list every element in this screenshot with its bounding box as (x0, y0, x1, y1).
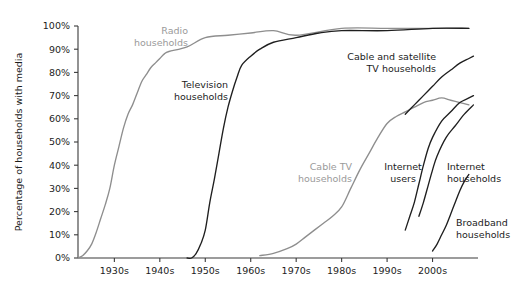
y-tick-label: 0% (55, 252, 70, 263)
series-label-line1: Cable and satellite (347, 51, 436, 62)
y-axis-ticks: 0%10%20%30%40%50%60%70%80%90%100% (43, 20, 78, 263)
series-label-line2: households (174, 91, 228, 102)
series-label-line2: TV households (366, 63, 436, 74)
series-label-6: Broadbandhouseholds (456, 217, 510, 240)
y-axis-group: 0%10%20%30%40%50%60%70%80%90%100% Percen… (13, 20, 78, 263)
series-label-line2: users (390, 173, 416, 184)
series-label-line1: Television (181, 79, 228, 90)
x-tick-label: 1950s (191, 265, 220, 276)
series-label-line2: households (298, 173, 352, 184)
x-axis-group: 1930s1940s1950s1960s1970s1980s1990s2000s (78, 258, 478, 276)
series-label-0: Radiohouseholds (134, 25, 188, 48)
y-axis-title: Percentage of households with media (13, 53, 24, 232)
y-tick-label: 60% (49, 113, 70, 124)
series-label-line1: Cable TV (310, 161, 353, 172)
x-tick-label: 2000s (418, 265, 447, 276)
series-label-line2: households (134, 37, 188, 48)
x-tick-label: 1930s (100, 265, 129, 276)
y-tick-label: 10% (49, 229, 70, 240)
y-tick-label: 40% (49, 160, 70, 171)
series-label-line2: households (456, 229, 510, 240)
series-label-line1: Radio (161, 25, 188, 36)
series-label-3: Cable and satelliteTV households (347, 51, 436, 74)
series-label-line1: Broadband (456, 217, 508, 228)
media-adoption-chart: 0%10%20%30%40%50%60%70%80%90%100% Percen… (0, 0, 520, 291)
x-tick-label: 1970s (282, 265, 311, 276)
x-tick-label: 1990s (373, 265, 402, 276)
series-label-line1: Internet (384, 161, 422, 172)
x-tick-label: 1940s (145, 265, 174, 276)
series-label-line2: households (447, 173, 501, 184)
y-tick-label: 80% (49, 67, 70, 78)
x-axis-ticks: 1930s1940s1950s1960s1970s1980s1990s2000s (100, 258, 447, 276)
series-label-1: Televisionhouseholds (174, 79, 228, 102)
y-tick-label: 70% (49, 90, 70, 101)
y-tick-label: 90% (49, 44, 70, 55)
y-tick-label: 30% (49, 183, 70, 194)
x-tick-label: 1960s (236, 265, 265, 276)
series-label-5: Internethouseholds (447, 161, 501, 184)
series-line-2 (260, 98, 469, 256)
chart-canvas: 0%10%20%30%40%50%60%70%80%90%100% Percen… (0, 0, 520, 291)
y-tick-label: 50% (49, 136, 70, 147)
y-tick-label: 100% (43, 20, 70, 31)
x-tick-label: 1980s (327, 265, 356, 276)
series-label-2: Cable TVhouseholds (298, 161, 353, 184)
y-tick-label: 20% (49, 206, 70, 217)
series-label-4: Internetusers (384, 161, 422, 184)
series-label-line1: Internet (447, 161, 485, 172)
